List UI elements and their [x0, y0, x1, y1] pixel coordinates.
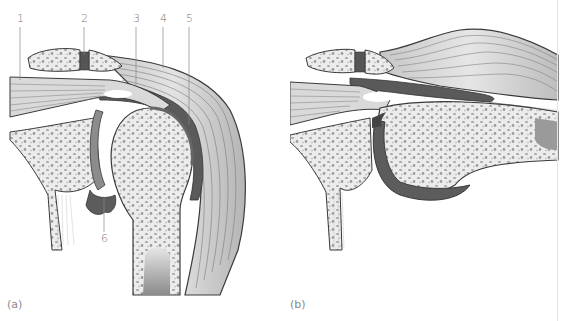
label-6-capsule: 6 [101, 232, 108, 245]
caption-b: (b) [290, 298, 306, 311]
page-edge-divider [557, 0, 558, 321]
shoulder-diagram-a [0, 0, 290, 321]
label-4-deltoid: 4 [160, 12, 167, 25]
label-5-bursa-edge: 5 [186, 12, 193, 25]
label-1-supraspinatus: 1 [17, 12, 24, 25]
label-3-bursa: 3 [133, 12, 140, 25]
panel-a-normal-shoulder: 1 2 3 4 5 6 (a) [0, 0, 290, 321]
label-2-acromioclavicular: 2 [81, 12, 88, 25]
shoulder-diagram-b [290, 0, 585, 321]
panel-b-abducted-shoulder: (b) [290, 0, 585, 321]
caption-a: (a) [7, 298, 22, 311]
